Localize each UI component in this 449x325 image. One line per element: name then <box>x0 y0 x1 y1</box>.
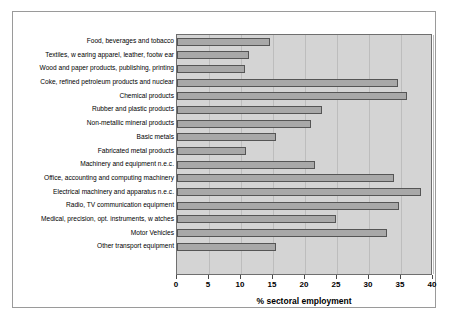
bar <box>177 188 421 196</box>
x-tick-label: 30 <box>364 280 373 289</box>
bar-row <box>177 187 431 200</box>
category-label: Radio, TV communication equipment <box>29 199 174 212</box>
bar <box>177 65 245 73</box>
bar-row <box>177 118 431 131</box>
x-tick-label: 0 <box>174 280 178 289</box>
bar-row <box>177 146 431 159</box>
category-label: Basic metals <box>29 131 174 144</box>
category-axis-labels: Food, beverages and tobaccoTextiles, w e… <box>29 34 174 275</box>
category-label: Motor Vehicles <box>29 227 174 240</box>
tickmark <box>176 275 177 279</box>
bar-row <box>177 36 431 49</box>
x-axis-tickmarks <box>176 275 432 279</box>
bar <box>177 202 399 210</box>
category-label: Rubber and plastic products <box>29 103 174 116</box>
x-tick-label: 15 <box>268 280 277 289</box>
bar <box>177 229 387 237</box>
bar-row <box>177 77 431 90</box>
tickmark <box>304 275 305 279</box>
bar-row <box>177 63 431 76</box>
bar-series <box>177 35 431 274</box>
x-tick-label: 20 <box>300 280 309 289</box>
tickmark <box>272 275 273 279</box>
category-label: Medical, precision, opt. instruments, w … <box>29 213 174 226</box>
category-label: Electrical machinery and apparatus n.e.c… <box>29 186 174 199</box>
chart-figure: Food, beverages and tobaccoTextiles, w e… <box>0 0 449 325</box>
bar <box>177 92 407 100</box>
category-label: Non-metallic mineral products <box>29 117 174 130</box>
bar <box>177 106 322 114</box>
bar-row <box>177 200 431 213</box>
chart-outer-frame: Food, beverages and tobaccoTextiles, w e… <box>12 11 436 308</box>
category-label: Fabricated metal products <box>29 145 174 158</box>
bar <box>177 215 336 223</box>
category-label: Chemical products <box>29 90 174 103</box>
bar <box>177 133 276 141</box>
category-label: Machinery and equipment n.e.c. <box>29 158 174 171</box>
x-axis-title: % sectoral employment <box>176 296 432 306</box>
bar-row <box>177 91 431 104</box>
category-label: Textiles, w earing apparel, leather, foo… <box>29 49 174 62</box>
x-tick-label: 35 <box>396 280 405 289</box>
bar-row <box>177 241 431 254</box>
tickmark <box>208 275 209 279</box>
bar <box>177 79 398 87</box>
bar <box>177 147 246 155</box>
bar <box>177 51 249 59</box>
tickmark <box>336 275 337 279</box>
bar-row <box>177 173 431 186</box>
plot-area <box>176 34 432 275</box>
bar-row <box>177 159 431 172</box>
bar <box>177 161 315 169</box>
category-label: Office, accounting and computing machine… <box>29 172 174 185</box>
bar <box>177 38 270 46</box>
x-tick-label: 25 <box>332 280 341 289</box>
bar <box>177 120 311 128</box>
bar <box>177 174 394 182</box>
x-axis-tick-labels: 0510152025303540 <box>13 280 449 292</box>
bar-row <box>177 214 431 227</box>
category-label: Wood and paper products, publishing, pri… <box>29 62 174 75</box>
tickmark <box>368 275 369 279</box>
x-tick-label: 10 <box>236 280 245 289</box>
tickmark <box>400 275 401 279</box>
category-label: Coke, refined petroleum products and nuc… <box>29 76 174 89</box>
x-tick-label: 40 <box>428 280 437 289</box>
gridline <box>433 35 434 274</box>
tickmark <box>432 275 433 279</box>
bar-row <box>177 132 431 145</box>
bar <box>177 243 276 251</box>
x-tick-label: 5 <box>206 280 210 289</box>
bar-row <box>177 228 431 241</box>
category-label: Other transport equipment <box>29 240 174 253</box>
category-label: Food, beverages and tobacco <box>29 35 174 48</box>
bar-row <box>177 104 431 117</box>
bar-row <box>177 50 431 63</box>
tickmark <box>240 275 241 279</box>
